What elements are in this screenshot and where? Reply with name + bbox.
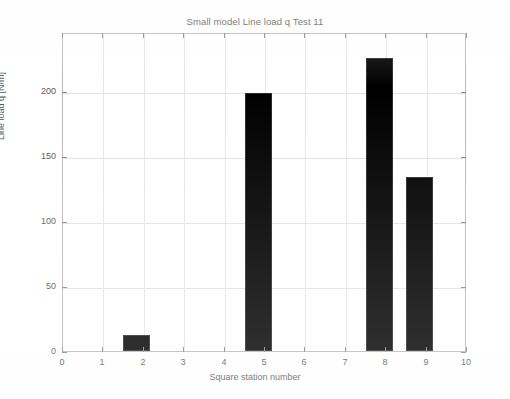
x-tick-mark xyxy=(224,347,225,352)
bar-station-2 xyxy=(123,335,150,351)
x-tick-mark xyxy=(385,347,386,352)
gridline-vertical xyxy=(346,34,347,351)
x-tick-mark xyxy=(304,347,305,352)
y-tick-mark-right xyxy=(461,287,466,288)
y-tick-mark-right xyxy=(461,157,466,158)
x-tick-label-10: 10 xyxy=(451,357,481,367)
y-tick-mark-right xyxy=(461,352,466,353)
x-tick-mark-top xyxy=(143,33,144,38)
x-tick-mark-top xyxy=(304,33,305,38)
y-tick-label-0: 0 xyxy=(18,346,56,356)
x-tick-mark xyxy=(466,347,467,352)
x-tick-mark xyxy=(183,347,184,352)
x-tick-mark-top xyxy=(385,33,386,38)
bar-station-8 xyxy=(366,58,393,351)
x-tick-label-2: 2 xyxy=(128,357,158,367)
x-tick-mark xyxy=(102,347,103,352)
x-tick-mark xyxy=(345,347,346,352)
x-tick-mark xyxy=(143,347,144,352)
y-tick-label-100: 100 xyxy=(18,216,56,226)
gridline-vertical xyxy=(184,34,185,351)
bar-station-9 xyxy=(406,177,433,351)
y-axis-label: Line load q [N/m] xyxy=(0,72,6,140)
chart-title: Small model Line load q Test 11 xyxy=(0,16,510,27)
y-tick-mark xyxy=(62,157,67,158)
x-tick-label-6: 6 xyxy=(289,357,319,367)
y-tick-mark-right xyxy=(461,222,466,223)
x-tick-label-4: 4 xyxy=(209,357,239,367)
x-tick-label-7: 7 xyxy=(330,357,360,367)
x-tick-mark xyxy=(62,347,63,352)
y-tick-mark-right xyxy=(461,92,466,93)
gridline-vertical xyxy=(103,34,104,351)
x-tick-label-3: 3 xyxy=(168,357,198,367)
y-tick-mark xyxy=(62,352,67,353)
x-tick-mark-top xyxy=(345,33,346,38)
y-tick-mark xyxy=(62,92,67,93)
y-tick-label-50: 50 xyxy=(18,281,56,291)
plot-area xyxy=(62,33,466,352)
y-tick-mark xyxy=(62,222,67,223)
y-tick-label-200: 200 xyxy=(18,86,56,96)
x-tick-label-8: 8 xyxy=(370,357,400,367)
x-tick-mark xyxy=(264,347,265,352)
x-axis-label: Square station number xyxy=(0,372,510,382)
x-tick-mark-top xyxy=(426,33,427,38)
x-tick-mark-top xyxy=(264,33,265,38)
x-tick-mark-top xyxy=(183,33,184,38)
bar-station-5 xyxy=(245,93,272,351)
x-tick-label-5: 5 xyxy=(249,357,279,367)
gridline-vertical xyxy=(305,34,306,351)
y-tick-label-150: 150 xyxy=(18,151,56,161)
figure-canvas: Small model Line load q Test 11 05010015… xyxy=(0,0,510,399)
gridline-vertical xyxy=(144,34,145,351)
x-tick-mark-top xyxy=(224,33,225,38)
y-tick-mark xyxy=(62,287,67,288)
gridline-vertical xyxy=(225,34,226,351)
x-tick-mark-top xyxy=(466,33,467,38)
x-tick-mark-top xyxy=(62,33,63,38)
plot-inner xyxy=(63,34,465,351)
x-tick-label-9: 9 xyxy=(411,357,441,367)
x-tick-label-0: 0 xyxy=(47,357,77,367)
x-tick-label-1: 1 xyxy=(87,357,117,367)
x-tick-mark-top xyxy=(102,33,103,38)
x-tick-mark xyxy=(426,347,427,352)
